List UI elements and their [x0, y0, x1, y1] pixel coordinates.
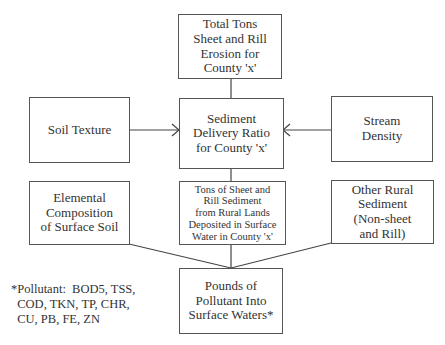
node-total-tons-label: Total Tons Sheet and Rill Erosion for Co…: [193, 17, 267, 75]
node-stream-density-label: Stream Density: [362, 114, 402, 143]
node-tons-deposited-label: Tons of Sheet and Rill Sediment from Rur…: [188, 184, 276, 243]
node-pounds-pollutant: Pounds of Pollutant Into Surface Waters*: [179, 268, 283, 334]
node-stream-density: Stream Density: [331, 96, 433, 162]
node-pounds-label: Pounds of Pollutant Into Surface Waters*: [189, 279, 274, 323]
edge-other-to-pounds: [231, 243, 331, 268]
node-elemental-label: Elemental Composition of Surface Soil: [41, 191, 119, 235]
node-other-rural-sediment: Other Rural Sediment (Non-sheet and Rill…: [331, 180, 434, 244]
edge-elemental-to-pounds: [129, 244, 231, 268]
node-other-rural-label: Other Rural Sediment (Non-sheet and Rill…: [352, 183, 414, 241]
node-sediment-delivery-ratio: Sediment Delivery Ratio for County 'x': [179, 98, 284, 169]
node-sdr-label: Sediment Delivery Ratio for County 'x': [193, 112, 270, 156]
node-elemental-composition: Elemental Composition of Surface Soil: [29, 181, 130, 245]
node-total-tons: Total Tons Sheet and Rill Erosion for Co…: [178, 14, 282, 79]
pollutant-footnote: *Pollutant: BOD5, TSS, COD, TKN, TP, CHR…: [11, 282, 135, 327]
node-soil-texture-label: Soil Texture: [48, 123, 111, 138]
node-tons-deposited: Tons of Sheet and Rill Sediment from Rur…: [179, 181, 286, 245]
node-soil-texture: Soil Texture: [29, 97, 130, 163]
